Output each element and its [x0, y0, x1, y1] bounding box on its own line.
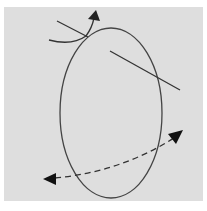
dashed-arrowhead-right-icon — [168, 130, 183, 144]
axis-line — [110, 51, 180, 90]
dashed-arrowhead-left-icon — [43, 173, 56, 185]
rotation-arrowhead-icon — [88, 10, 100, 21]
rotation-arrow-icon — [49, 18, 94, 42]
top-tangent-line — [57, 21, 88, 37]
ellipse-loop — [60, 28, 162, 198]
figure-caption — [0, 201, 207, 211]
diagram-canvas — [0, 0, 207, 211]
dashed-double-arrow — [55, 138, 174, 178]
